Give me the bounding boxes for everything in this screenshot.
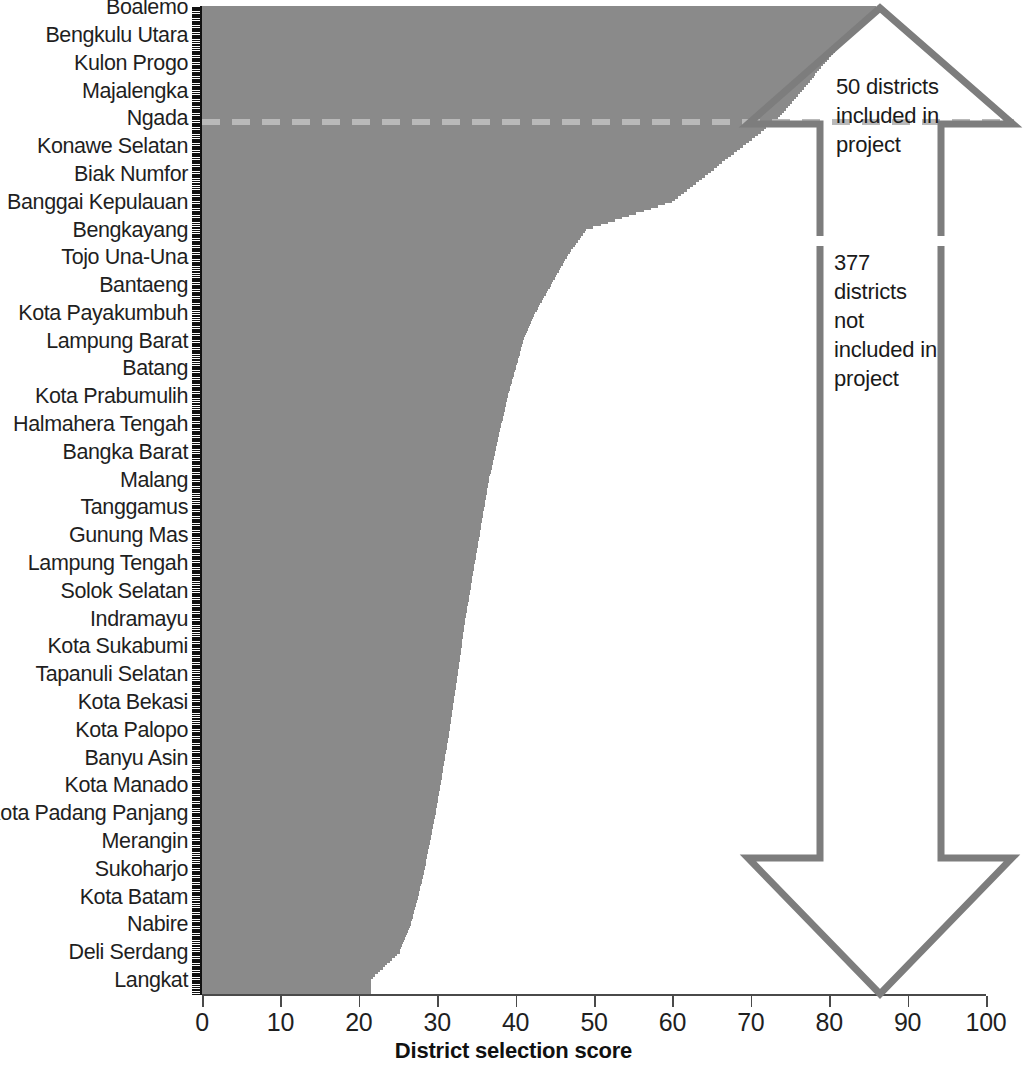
x-axis-tick-label: 10 — [267, 1008, 294, 1037]
y-axis-label: Solok Selatan — [61, 578, 188, 603]
annotation-excluded-label: 377 districts not included in project — [834, 248, 944, 393]
y-axis-label: Sukoharjo — [95, 856, 188, 881]
y-axis-label: Indramayu — [90, 606, 188, 631]
x-axis-tick — [437, 996, 439, 1007]
y-axis-label: Kota Padang Panjang — [0, 801, 188, 826]
y-axis-label: Banggai Kepulauan — [7, 189, 188, 214]
y-axis-label: Halmahera Tengah — [13, 412, 188, 437]
x-axis-tick-label: 50 — [580, 1008, 607, 1037]
y-axis-label: Bengkayang — [72, 217, 188, 242]
x-axis-tick-label: 100 — [966, 1008, 1007, 1037]
x-axis-tick-label: 70 — [737, 1008, 764, 1037]
y-axis-label: Kulon Progo — [74, 50, 188, 75]
x-axis-tick-label: 80 — [816, 1008, 843, 1037]
y-axis-label: Majalengka — [82, 78, 188, 103]
y-axis-spine — [200, 6, 202, 995]
y-axis-label: Kota Batam — [80, 884, 188, 909]
x-axis-tick — [751, 996, 753, 1007]
y-axis-label: Konawe Selatan — [37, 134, 188, 159]
x-axis-tick — [359, 996, 361, 1007]
x-axis-tick — [516, 996, 518, 1007]
x-axis-tick — [594, 996, 596, 1007]
y-axis-label: Ngada — [127, 106, 188, 131]
y-axis-label: Tanggamus — [80, 495, 188, 520]
y-axis-label: Tapanuli Selatan — [35, 662, 188, 687]
x-axis-tick-label: 90 — [894, 1008, 921, 1037]
y-axis-label: Kota Bekasi — [78, 690, 188, 715]
y-axis-label: Malang — [120, 467, 188, 492]
y-axis-label: Deli Serdang — [69, 940, 189, 965]
y-axis-label: Boalemo — [106, 0, 188, 20]
x-axis-tick — [280, 996, 282, 1007]
y-axis-label: Biak Numfor — [74, 161, 188, 186]
y-axis-label: Bantaeng — [99, 273, 188, 298]
y-axis-label: Kota Prabumulih — [35, 384, 188, 409]
y-axis-label: Bengkulu Utara — [45, 22, 188, 47]
x-axis-tick-label: 0 — [195, 1008, 209, 1037]
annotation-included-label: 50 districts included in project — [836, 72, 976, 159]
y-axis-label: Kota Sukabumi — [47, 634, 188, 659]
district-selection-bar-chart: BoalemoBengkulu UtaraKulon ProgoMajaleng… — [0, 0, 1027, 1069]
y-axis-label: Batang — [122, 356, 188, 381]
x-axis-tick — [829, 996, 831, 1007]
y-axis-label: Gunung Mas — [69, 523, 188, 548]
x-axis-tick — [908, 996, 910, 1007]
x-axis-tick — [202, 996, 204, 1007]
y-axis-labels: BoalemoBengkulu UtaraKulon ProgoMajaleng… — [0, 0, 196, 1000]
x-axis-tick — [986, 996, 988, 1007]
y-axis-label: Banyu Asin — [84, 745, 188, 770]
y-axis-label: Kota Manado — [65, 773, 189, 798]
x-axis-tick-label: 60 — [659, 1008, 686, 1037]
y-axis-label: Langkat — [114, 967, 188, 992]
y-axis-label: Lampung Tengah — [28, 551, 188, 576]
y-axis-label: Bangka Barat — [63, 439, 188, 464]
y-axis-label: Merangin — [102, 828, 188, 853]
y-axis-label: Kota Palopo — [75, 717, 188, 742]
x-axis-tick-label: 20 — [345, 1008, 372, 1037]
y-axis-label: Kota Payakumbuh — [18, 300, 188, 325]
x-axis-title: District selection score — [0, 1038, 1027, 1064]
y-axis-label: Lampung Barat — [46, 328, 188, 353]
x-axis-tick — [672, 996, 674, 1007]
y-axis-label: Tojo Una-Una — [61, 245, 188, 270]
x-axis-tick-label: 40 — [502, 1008, 529, 1037]
y-axis-label: Nabire — [127, 912, 188, 937]
x-axis-tick-label: 30 — [424, 1008, 451, 1037]
